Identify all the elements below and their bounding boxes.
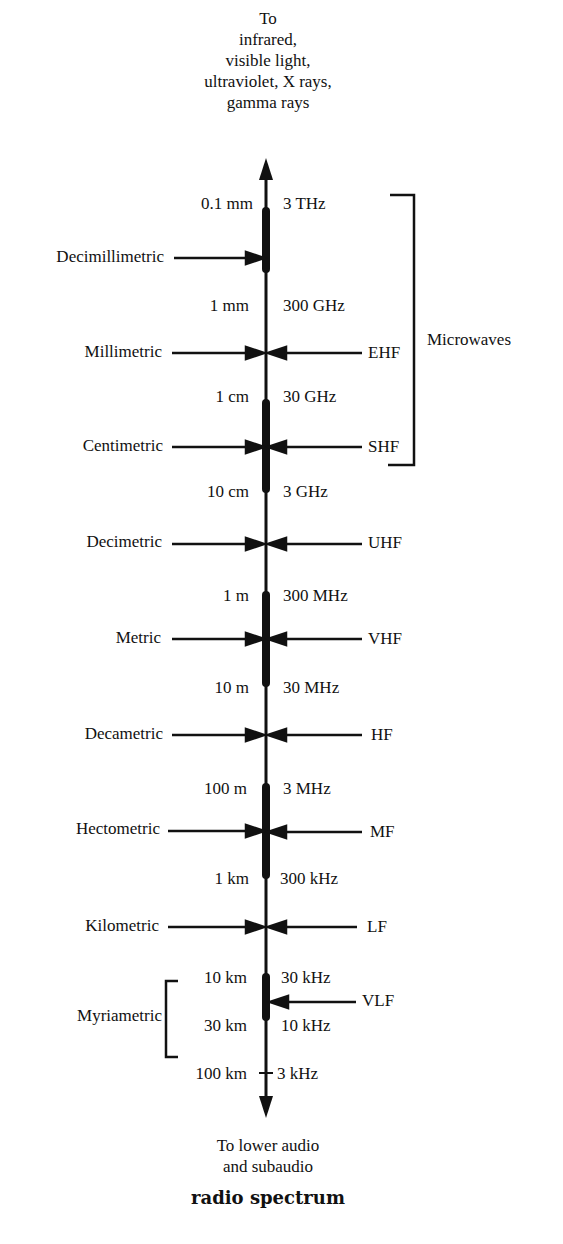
frequency-label: 30 kHz <box>281 968 331 988</box>
band-segment-myriametric <box>262 973 270 1021</box>
band-designation-vhf: VHF <box>368 629 402 649</box>
wavelength-label: 100 km <box>196 1064 247 1084</box>
band-designation-ehf: EHF <box>368 343 400 363</box>
wavelength-label: 100 m <box>204 779 247 799</box>
bottom-note: To lower audio and subaudio <box>133 1135 403 1177</box>
frequency-label: 3 GHz <box>283 482 328 502</box>
wavelength-label: 1 mm <box>210 296 249 316</box>
wavelength-label: 10 m <box>215 678 249 698</box>
arrow-down-icon <box>259 1096 273 1118</box>
frequency-label: 30 GHz <box>283 387 336 407</box>
band-name-decimetric: Decimetric <box>86 532 162 552</box>
band-designation-lf: LF <box>367 917 387 937</box>
microwaves-label: Microwaves <box>427 330 511 350</box>
wavelength-label: 30 km <box>204 1016 247 1036</box>
band-name-metric: Metric <box>116 628 161 648</box>
arrow-up-icon <box>259 158 273 180</box>
frequency-label: 3 kHz <box>277 1064 318 1084</box>
band-designation-hf: HF <box>371 725 393 745</box>
microwaves-bracket <box>388 195 414 465</box>
spectrum-axis-graphic <box>0 0 563 1244</box>
frequency-label: 300 MHz <box>283 586 348 606</box>
frequency-label: 300 kHz <box>280 869 338 889</box>
band-name-kilometric: Kilometric <box>85 916 159 936</box>
band-name-millimetric: Millimetric <box>85 342 162 362</box>
myriametric-bracket <box>166 981 178 1057</box>
band-segment-decimillimetric <box>262 207 270 273</box>
band-name-decametric: Decametric <box>85 724 163 744</box>
wavelength-label: 1 cm <box>215 387 249 407</box>
band-name-myriametric: Myriametric <box>77 1006 162 1026</box>
wavelength-label: 1 km <box>215 869 249 889</box>
frequency-label: 10 kHz <box>281 1016 331 1036</box>
top-note: To infrared, visible light, ultraviolet,… <box>133 8 403 113</box>
band-designation-mf: MF <box>370 822 395 842</box>
left-arrows <box>168 252 264 933</box>
band-designation-shf: SHF <box>368 437 399 457</box>
band-designation-uhf: UHF <box>368 533 402 553</box>
wavelength-label: 10 km <box>204 968 247 988</box>
wavelength-label: 0.1 mm <box>201 194 253 214</box>
frequency-label: 300 GHz <box>283 296 345 316</box>
wavelength-label: 1 m <box>223 586 249 606</box>
wavelength-label: 10 cm <box>207 482 249 502</box>
band-designation-vlf: VLF <box>362 991 394 1011</box>
frequency-label: 30 MHz <box>283 678 339 698</box>
band-name-hectometric: Hectometric <box>76 819 160 839</box>
diagram-title: radio spectrum <box>133 1187 403 1208</box>
band-name-decimillimetric: Decimillimetric <box>56 247 164 267</box>
frequency-label: 3 MHz <box>283 779 331 799</box>
frequency-label: 3 THz <box>283 194 326 214</box>
band-name-centimetric: Centimetric <box>83 436 163 456</box>
